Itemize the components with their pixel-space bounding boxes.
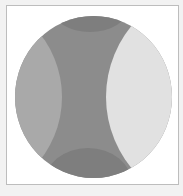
circle-diagram <box>0 0 183 196</box>
